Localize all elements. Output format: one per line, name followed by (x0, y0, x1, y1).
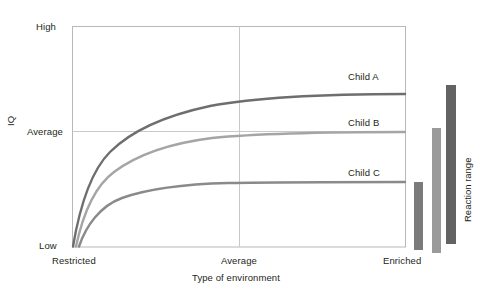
x-axis-tick-enriched: Enriched (383, 255, 421, 266)
series-label-child-b: Child B (348, 117, 379, 128)
x-axis-title: Type of environment (192, 272, 280, 283)
curve-child-b (76, 132, 405, 247)
y-axis-tick-high: High (36, 21, 56, 32)
series-label-child-c: Child C (348, 167, 380, 178)
reaction-range-chart: High Average Low IQ Restricted Average E… (0, 0, 484, 298)
reaction-range-title: Reaction range (462, 158, 473, 222)
series-label-child-a: Child A (348, 71, 379, 82)
x-axis-tick-average: Average (221, 255, 257, 266)
curve-child-c (79, 182, 405, 247)
y-axis-title: IQ (5, 116, 16, 126)
y-axis-tick-average: Average (27, 126, 63, 137)
reaction-bar-child-a (446, 85, 456, 244)
x-axis-tick-restricted: Restricted (52, 255, 96, 266)
y-axis-tick-low: Low (39, 240, 57, 251)
reaction-bar-child-c (414, 182, 423, 250)
chart-canvas (0, 0, 484, 298)
reaction-bar-child-b (432, 128, 441, 253)
